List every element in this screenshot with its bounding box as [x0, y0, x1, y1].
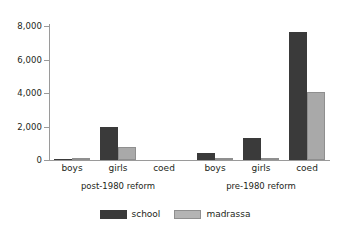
- y-axis-tick-label: 0: [0, 155, 42, 165]
- x-axis-tick-label: coed: [296, 163, 318, 173]
- y-axis-tick-label: 4,000: [0, 88, 42, 98]
- legend-label-school: school: [132, 209, 161, 219]
- bar-school: [100, 127, 118, 161]
- x-axis-line: [49, 160, 330, 161]
- legend-label-madrassa: madrassa: [206, 209, 250, 219]
- x-axis-tick-label: girls: [108, 163, 127, 173]
- x-axis-group-label: post-1980 reform: [81, 181, 155, 191]
- bar-madrassa: [118, 147, 136, 160]
- school-swatch-icon: [100, 210, 127, 219]
- bar-madrassa: [307, 92, 325, 160]
- bar-school: [197, 153, 215, 160]
- y-axis-tick-label: 8,000: [0, 21, 42, 31]
- bar-madrassa: [261, 158, 279, 160]
- bar-madrassa: [215, 158, 233, 160]
- legend-item-school: school: [100, 209, 161, 219]
- bar-school: [54, 159, 72, 160]
- y-axis-tick: [44, 60, 49, 61]
- x-axis-tick-label: girls: [251, 163, 270, 173]
- bar-school: [289, 32, 307, 160]
- legend-item-madrassa: madrassa: [174, 209, 250, 219]
- y-axis-tick-label: 2,000: [0, 122, 42, 132]
- legend: school madrassa: [0, 209, 350, 219]
- madrassa-swatch-icon: [174, 210, 201, 219]
- bar-madrassa: [72, 158, 90, 160]
- bar-school: [243, 138, 261, 160]
- bar-chart: 8,0006,0004,0002,0000 boysgirlscoedboysg…: [0, 0, 350, 236]
- y-axis-tick: [44, 26, 49, 27]
- x-axis-tick-label: boys: [204, 163, 225, 173]
- y-axis-tick-label: 6,000: [0, 55, 42, 65]
- plot-area: [50, 26, 330, 160]
- y-axis-tick: [44, 127, 49, 128]
- y-axis-tick: [44, 93, 49, 94]
- x-axis-tick-label: coed: [153, 163, 175, 173]
- x-axis-tick-label: boys: [61, 163, 82, 173]
- x-axis-group-label: pre-1980 reform: [226, 181, 296, 191]
